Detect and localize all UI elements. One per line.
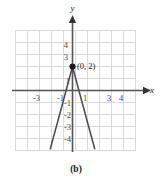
x-tick-label-neg3: -3 <box>33 93 40 103</box>
y-tick-label-neg3: -3 <box>64 122 71 132</box>
x-tick-label-3: 3 <box>107 93 111 103</box>
y-tick-label-neg1: -1 <box>64 98 71 108</box>
vertex-point-label: (0, 2) <box>77 61 96 71</box>
vertex-point-marker <box>69 63 75 69</box>
figure-caption: (b) <box>70 164 82 175</box>
y-tick-label-3: 3 <box>64 52 68 62</box>
y-tick-label-neg4: -4 <box>64 134 72 144</box>
graph-plot: 4 3 1 -1 -2 -3 -4 -3 -1 1 3 4 x y (0, 2)… <box>0 0 162 180</box>
x-tick-label-neg1: -1 <box>57 93 64 103</box>
y-tick-label-4: 4 <box>64 40 69 50</box>
y-tick-label-1: 1 <box>66 76 70 86</box>
y-axis-label: y <box>70 3 75 13</box>
x-tick-label-1: 1 <box>83 93 87 103</box>
figure-container: 4 3 1 -1 -2 -3 -4 -3 -1 1 3 4 x y (0, 2)… <box>0 0 162 180</box>
y-tick-label-neg2: -2 <box>64 110 71 120</box>
x-axis-label: x <box>149 85 154 95</box>
